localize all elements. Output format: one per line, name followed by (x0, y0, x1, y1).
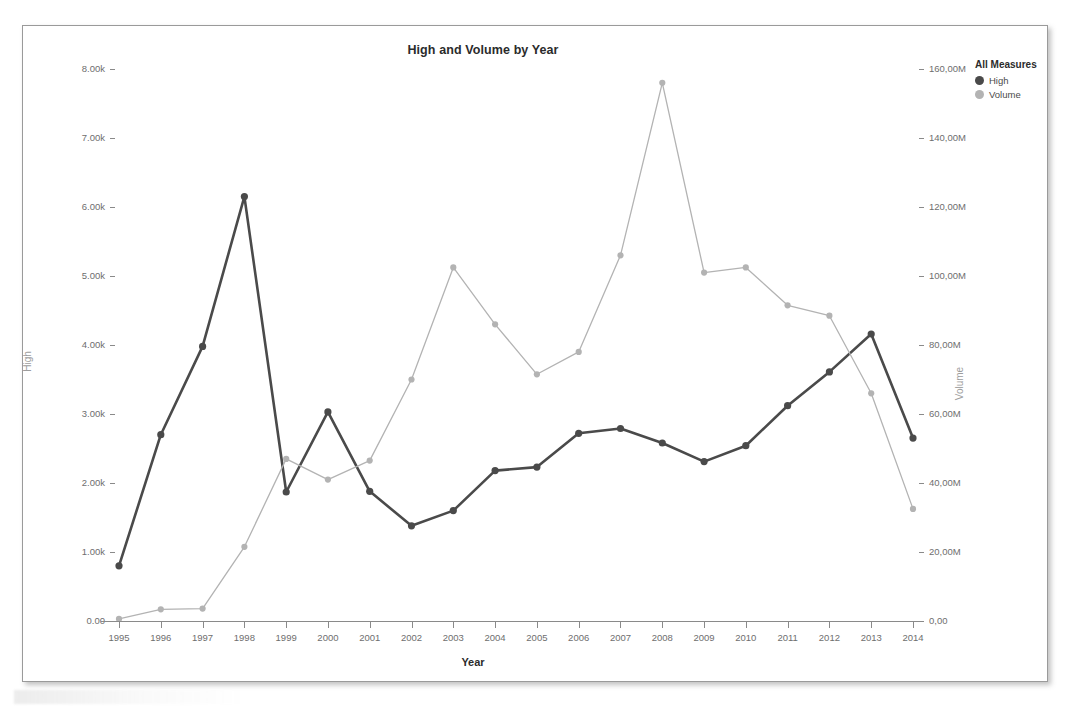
y-right-tick-label: 100,00M (929, 270, 991, 281)
data-point[interactable] (408, 522, 415, 529)
x-tick-label: 2014 (891, 632, 935, 643)
data-point[interactable] (659, 80, 665, 86)
y-left-tick-label: 8.00k (53, 63, 105, 74)
data-point[interactable] (241, 544, 247, 550)
data-point[interactable] (617, 425, 624, 432)
x-tick-label: 2013 (849, 632, 893, 643)
data-point[interactable] (408, 376, 414, 382)
x-tick-label: 1998 (222, 632, 266, 643)
x-tick-mark (244, 622, 245, 628)
page-artifact (14, 690, 244, 704)
data-point[interactable] (115, 562, 122, 569)
data-point[interactable] (785, 302, 791, 308)
y-right-tick-label: 20,00M (929, 546, 991, 557)
y-right-tick-label: 140,00M (929, 132, 991, 143)
data-point[interactable] (492, 467, 499, 474)
plot-area: High Volume Year 0.001.00k2.00k3.00k4.00… (23, 26, 1049, 683)
data-point[interactable] (158, 606, 164, 612)
x-tick-label: 2011 (766, 632, 810, 643)
data-point[interactable] (200, 606, 206, 612)
x-tick-mark (662, 622, 663, 628)
data-point[interactable] (617, 252, 623, 258)
data-point[interactable] (868, 330, 875, 337)
series-high (115, 193, 916, 569)
data-point[interactable] (909, 435, 916, 442)
y-right-tick-mark (919, 552, 924, 553)
data-point[interactable] (743, 264, 749, 270)
x-tick-label: 2012 (807, 632, 851, 643)
y-right-tick-mark (919, 345, 924, 346)
data-point[interactable] (157, 431, 164, 438)
data-point[interactable] (199, 343, 206, 350)
legend: All Measures HighVolume (975, 59, 1065, 103)
chart-window-frame: High and Volume by Year High Volume Year… (22, 25, 1048, 682)
legend-swatch-icon (975, 90, 984, 99)
x-tick-mark (203, 622, 204, 628)
series-canvas (23, 26, 1049, 683)
x-tick-mark (161, 622, 162, 628)
data-point[interactable] (575, 430, 582, 437)
x-tick-mark (537, 622, 538, 628)
x-tick-mark (286, 622, 287, 628)
x-tick-label: 2000 (306, 632, 350, 643)
x-tick-mark (579, 622, 580, 628)
y-left-tick-label: 7.00k (53, 132, 105, 143)
y-left-tick-label: 5.00k (53, 270, 105, 281)
data-point[interactable] (701, 458, 708, 465)
data-point[interactable] (366, 488, 373, 495)
x-tick-label: 2002 (390, 632, 434, 643)
legend-item-high[interactable]: High (975, 75, 1065, 86)
legend-title: All Measures (975, 59, 1065, 70)
data-point[interactable] (325, 477, 331, 483)
data-point[interactable] (367, 458, 373, 464)
series-volume (116, 80, 916, 622)
x-tick-label: 2005 (515, 632, 559, 643)
x-tick-label: 2008 (640, 632, 684, 643)
y-right-tick-label: 80,00M (929, 339, 991, 350)
data-point[interactable] (283, 488, 290, 495)
screenshot-root: High and Volume by Year High Volume Year… (0, 0, 1075, 709)
x-tick-label: 2010 (724, 632, 768, 643)
y-right-tick-label: 40,00M (929, 477, 991, 488)
y-left-tick-mark (110, 414, 115, 415)
y-right-tick-mark (919, 414, 924, 415)
data-point[interactable] (533, 464, 540, 471)
y-left-tick-label: 6.00k (53, 201, 105, 212)
x-tick-mark (788, 622, 789, 628)
data-point[interactable] (701, 270, 707, 276)
x-tick-label: 1995 (97, 632, 141, 643)
data-point[interactable] (492, 321, 498, 327)
x-tick-mark (119, 622, 120, 628)
data-point[interactable] (534, 371, 540, 377)
data-point[interactable] (826, 313, 832, 319)
data-point[interactable] (742, 442, 749, 449)
y-left-tick-label: 2.00k (53, 477, 105, 488)
x-tick-label: 1996 (139, 632, 183, 643)
x-tick-mark (746, 622, 747, 628)
y-right-tick-label: 60,00M (929, 408, 991, 419)
data-point[interactable] (784, 402, 791, 409)
y-right-tick-mark (919, 276, 924, 277)
y-right-tick-mark (919, 69, 924, 70)
x-tick-mark (913, 622, 914, 628)
x-tick-label: 2007 (598, 632, 642, 643)
data-point[interactable] (283, 456, 289, 462)
data-point[interactable] (826, 368, 833, 375)
y-right-tick-mark (919, 207, 924, 208)
legend-item-volume[interactable]: Volume (975, 89, 1065, 100)
x-tick-mark (704, 622, 705, 628)
data-point[interactable] (659, 439, 666, 446)
y-left-tick-label: 0.00 (53, 615, 105, 626)
data-point[interactable] (324, 408, 331, 415)
x-tick-label: 2006 (557, 632, 601, 643)
data-point[interactable] (241, 193, 248, 200)
y-left-tick-mark (110, 138, 115, 139)
y-right-tick-label: 0,00 (929, 615, 991, 626)
data-point[interactable] (910, 506, 916, 512)
x-tick-label: 2009 (682, 632, 726, 643)
data-point[interactable] (868, 390, 874, 396)
data-point[interactable] (450, 507, 457, 514)
data-point[interactable] (576, 349, 582, 355)
data-point[interactable] (450, 264, 456, 270)
x-tick-mark (871, 622, 872, 628)
